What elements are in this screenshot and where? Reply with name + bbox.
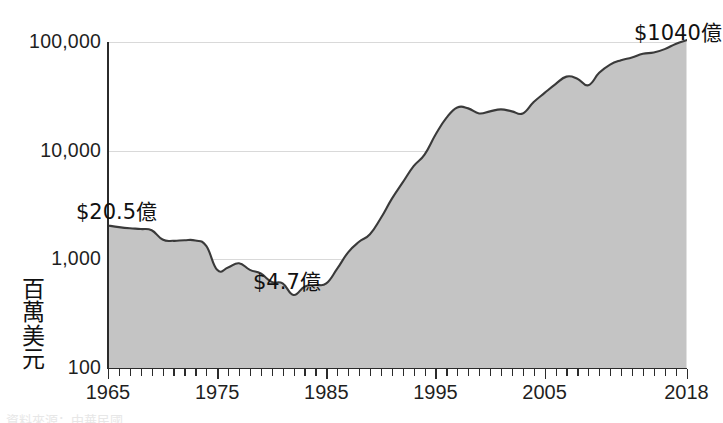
x-tick-1972 [184,369,185,376]
x-tick-2011 [610,369,611,376]
x-tick-1996 [446,369,447,376]
x-tick-label-1985: 1985 [281,381,371,404]
x-tick-label-2018: 2018 [642,381,723,404]
x-tick-2001 [501,369,502,376]
x-tick-2012 [621,369,622,376]
x-tick-label-2005: 2005 [500,381,590,404]
x-tick-1995 [435,369,436,379]
chart-figure: 100,000 10,000 1,000 100 1965 1975 1985 … [0,0,723,423]
x-tick-1981 [283,369,284,376]
start-value-annotation: $20.5億 [76,195,157,225]
x-tick-1997 [457,369,458,376]
x-tick-1986 [337,369,338,376]
x-tick-2018 [687,369,688,379]
x-tick-1978 [250,369,251,376]
x-tick-1979 [261,369,262,376]
x-tick-2000 [490,369,491,376]
x-tick-2005 [545,369,546,379]
x-tick-1967 [130,369,131,376]
y-tick-label-100000: 100,000 [29,30,101,53]
x-tick-1998 [468,369,469,376]
x-tick-1971 [173,369,174,376]
x-tick-1975 [217,369,218,379]
x-tick-1991 [392,369,393,376]
x-tick-2007 [566,369,567,376]
x-tick-1999 [479,369,480,376]
x-tick-1965 [108,369,109,379]
x-tick-1969 [152,369,153,376]
x-tick-2004 [534,369,535,376]
x-tick-1966 [119,369,120,376]
x-tick-2002 [512,369,513,376]
y-tick-label-100: 100 [68,356,101,379]
x-tick-1976 [228,369,229,376]
x-tick-1977 [239,369,240,376]
x-tick-1968 [141,369,142,376]
end-value-annotation: $1040億 [634,16,722,46]
y-axis-title-char-4: 元 [18,348,48,371]
y-tick-label-1000: 1,000 [51,247,101,270]
x-tick-label-1965: 1965 [63,381,153,404]
x-tick-label-1975: 1975 [172,381,262,404]
y-axis-title-char-2: 萬 [18,301,48,324]
x-tick-2003 [523,369,524,376]
x-tick-2017 [676,369,677,376]
x-tick-1985 [326,369,327,379]
y-axis-title: 百 萬 美 元 [18,278,48,372]
x-tick-1984 [315,369,316,376]
x-tick-1990 [381,369,382,376]
x-tick-2016 [665,369,666,376]
x-tick-1994 [425,369,426,376]
footer-source-text: 資料來源：中華民國 [6,410,306,423]
x-tick-1974 [206,369,207,376]
x-tick-1987 [348,369,349,376]
x-tick-1992 [403,369,404,376]
low-value-annotation: $4.7億 [253,265,321,295]
x-tick-1989 [370,369,371,376]
y-axis-title-char-1: 百 [18,278,48,301]
x-tick-2006 [556,369,557,376]
x-tick-2013 [632,369,633,376]
x-tick-1988 [359,369,360,376]
x-tick-1970 [163,369,164,376]
y-axis-title-char-3: 美 [18,325,48,348]
x-tick-2010 [599,369,600,376]
x-tick-1982 [294,369,295,376]
x-tick-1983 [304,369,305,376]
x-tick-2009 [588,369,589,376]
x-tick-2008 [577,369,578,376]
area-fill-path [108,40,687,368]
x-tick-2015 [654,369,655,376]
x-tick-2014 [643,369,644,376]
x-tick-1993 [414,369,415,376]
x-tick-1980 [272,369,273,376]
y-tick-label-10000: 10,000 [40,139,101,162]
x-tick-1973 [195,369,196,376]
x-tick-label-1995: 1995 [390,381,480,404]
